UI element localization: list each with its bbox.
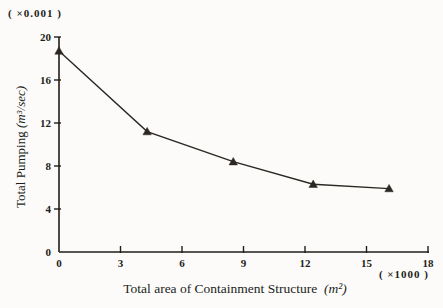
line-chart-plot: 0369121518048121620: [0, 0, 443, 308]
x-tick-label: 15: [361, 257, 373, 269]
scanned-chart-page: ( ×0.001 ) Total Pumping (m³/sec) 036912…: [0, 0, 443, 308]
x-tick-label: 3: [118, 257, 124, 269]
data-line: [59, 51, 389, 189]
x-tick-label: 6: [179, 257, 185, 269]
y-tick-label: 8: [46, 160, 52, 172]
x-axis-title: Total area of Containment Structure (m²): [0, 281, 443, 297]
y-tick-label: 16: [40, 74, 52, 86]
y-tick-label: 4: [46, 203, 52, 215]
x-tick-label: 12: [300, 257, 312, 269]
x-axis-title-unit: (m²): [324, 281, 347, 296]
x-axis-title-text: Total area of Containment Structure: [123, 281, 317, 296]
x-tick-label: 0: [56, 257, 62, 269]
x-axis-multiplier-label: ( ×1000 ): [379, 268, 429, 280]
x-tick-label: 9: [241, 257, 247, 269]
y-tick-label: 12: [40, 117, 52, 129]
data-point-marker: [55, 47, 63, 54]
y-tick-label: 0: [46, 246, 52, 258]
y-tick-label: 20: [40, 31, 52, 43]
